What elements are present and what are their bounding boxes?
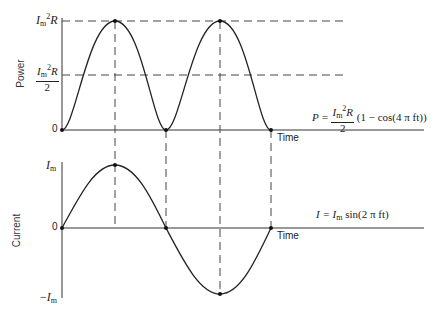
current-equation: I = Im sin(2 π ft) — [316, 208, 389, 222]
current-axis-label: Current — [11, 214, 22, 247]
power-ytick-half: Im2R 2 — [36, 62, 59, 93]
current-ytick-zero: 0 — [52, 221, 58, 232]
power-axis-label: Power — [15, 59, 26, 87]
current-ytick-max: Im — [46, 158, 56, 173]
current-ytick-min: −Im — [40, 290, 57, 305]
power-ytick-max: Im2R — [36, 12, 58, 28]
diagram-canvas — [0, 0, 443, 322]
power-x-axis-label: Time — [277, 132, 299, 143]
current-x-axis-label: Time — [277, 230, 299, 241]
power-ytick-zero: 0 — [52, 123, 58, 134]
power-equation: P = Im2R 2 (1 − cos(4 π ft)) — [312, 103, 427, 134]
